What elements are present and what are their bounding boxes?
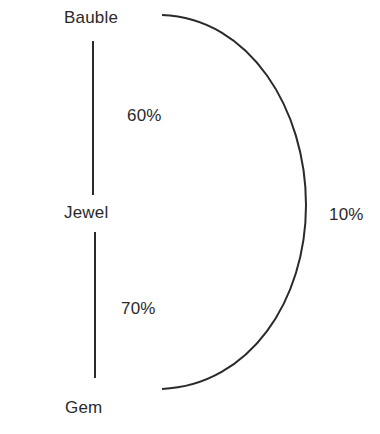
diagram-canvas bbox=[0, 0, 380, 434]
edge-bauble-gem-arc bbox=[162, 15, 306, 389]
edge-label-bauble-gem: 10% bbox=[329, 205, 364, 225]
node-bauble: Bauble bbox=[64, 8, 118, 28]
node-jewel: Jewel bbox=[64, 203, 108, 223]
node-gem: Gem bbox=[65, 398, 102, 418]
edge-label-jewel-gem: 70% bbox=[121, 299, 156, 319]
edge-label-bauble-jewel: 60% bbox=[127, 106, 162, 126]
